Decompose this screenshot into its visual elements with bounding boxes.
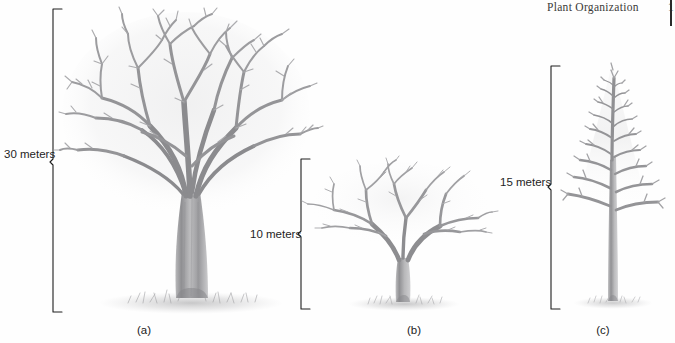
tree-illustration-a	[58, 6, 320, 314]
running-head: Plant Organization	[547, 1, 639, 13]
page-edge-rule	[670, 0, 672, 26]
scale-label-a: 30 meters	[4, 148, 55, 160]
tree-illustration-c	[556, 60, 675, 314]
subfigure-caption-b: (b)	[394, 324, 434, 336]
scale-label-b: 10 meters	[250, 228, 301, 240]
subfigure-caption-c: (c)	[583, 324, 623, 336]
scale-label-c: 15 meters	[500, 176, 551, 188]
figure-root: Plant Organization 1 30 meters	[0, 0, 675, 343]
subfigure-caption-a: (a)	[124, 324, 164, 336]
tree-illustration-b	[308, 158, 486, 314]
